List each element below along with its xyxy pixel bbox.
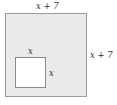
outer-side-label: x + 7 xyxy=(90,51,113,60)
inner-top-label: x xyxy=(28,47,33,56)
outer-top-label: x + 7 xyxy=(36,2,59,11)
inner-square xyxy=(15,57,46,88)
inner-side-label: x xyxy=(49,69,54,78)
